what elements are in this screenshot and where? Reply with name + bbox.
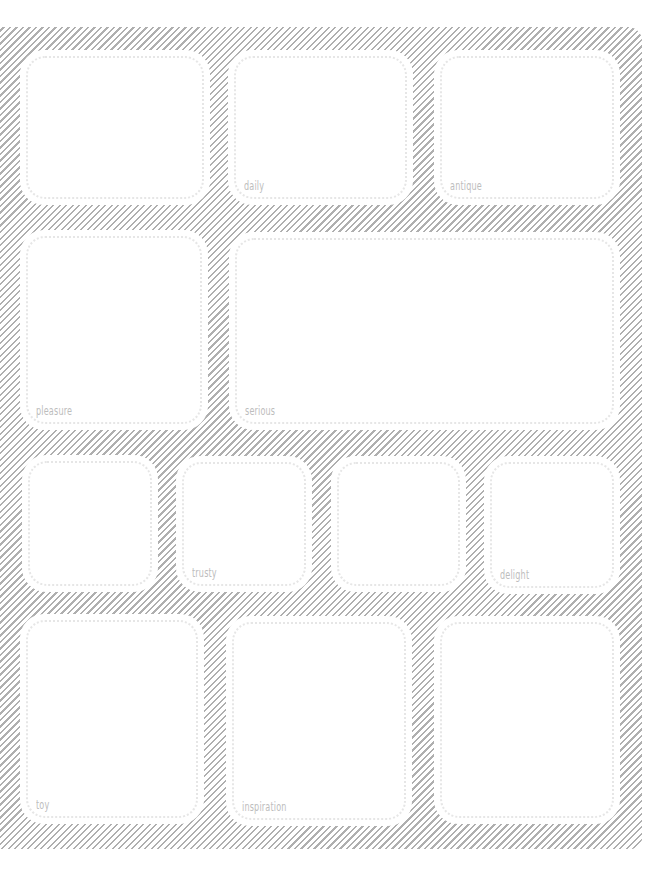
slot-label: toy: [36, 797, 49, 812]
photo-slot-toy[interactable]: toy: [20, 614, 204, 824]
photo-slot-trusty[interactable]: trusty: [176, 456, 312, 592]
photo-slot-r4-c3[interactable]: [434, 616, 620, 824]
photo-slot-delight[interactable]: delight: [484, 456, 620, 594]
slot-label: trusty: [192, 565, 217, 580]
photo-slot-antique[interactable]: antique: [434, 50, 620, 205]
photo-slot-daily[interactable]: daily: [228, 50, 413, 205]
photo-slot-r1-c1[interactable]: [20, 50, 210, 205]
slot-label: antique: [450, 178, 482, 193]
slot-label: pleasure: [36, 403, 72, 418]
slot-label: inspiration: [242, 799, 287, 814]
photo-slot-r3-c1[interactable]: [22, 455, 158, 592]
photo-slot-inspiration[interactable]: inspiration: [226, 616, 412, 826]
slot-label: daily: [244, 178, 264, 193]
photo-slot-r3-c3[interactable]: [331, 456, 466, 592]
photo-slot-pleasure[interactable]: pleasure: [20, 230, 208, 430]
slot-label: serious: [245, 403, 275, 418]
photo-slot-serious[interactable]: serious: [229, 232, 620, 430]
slot-label: delight: [500, 567, 529, 582]
